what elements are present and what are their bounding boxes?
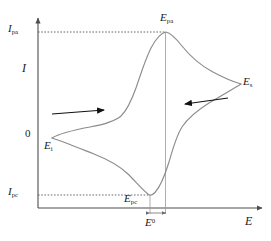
- label-formal-potential: E0: [145, 217, 155, 228]
- label-current-axis: I: [22, 62, 26, 74]
- forward-scan-arrow-icon: [52, 110, 104, 114]
- label-ei: Ei: [44, 140, 53, 151]
- cv-diagram: Ipa Ipc I 0 Epa Epc Ei Es E0 E: [0, 0, 271, 241]
- label-epc: Epc: [124, 193, 137, 204]
- potential-drop-lines: [150, 32, 166, 214]
- forward-scan-curve: [52, 32, 241, 138]
- label-potential-axis: E: [245, 215, 252, 227]
- reverse-scan-arrow-icon: [185, 98, 228, 104]
- label-zero-tick: 0: [25, 128, 31, 139]
- scan-direction-arrows: [52, 98, 228, 114]
- label-ipc: Ipc: [8, 186, 18, 197]
- label-epa: Epa: [160, 12, 173, 23]
- label-ipa: Ipa: [8, 23, 18, 34]
- label-es: Es: [243, 76, 252, 87]
